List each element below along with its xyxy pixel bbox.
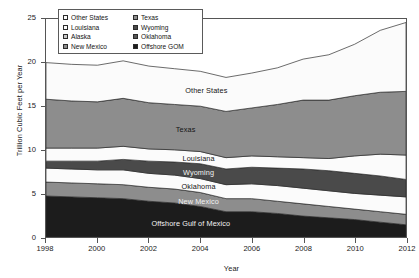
- x-tick-label: 2008: [282, 244, 326, 253]
- legend-label: Oklahoma: [141, 33, 171, 40]
- x-tick-label: 1998: [23, 244, 67, 253]
- legend-label: Other States: [71, 14, 108, 21]
- x-tick-label: 2006: [230, 244, 274, 253]
- x-tick-label: 2010: [333, 244, 377, 253]
- legend-item[interactable]: Alaska: [63, 33, 133, 40]
- x-tick-mark: [45, 238, 46, 243]
- legend-label: Wyoming: [141, 24, 168, 31]
- legend-item[interactable]: Other States: [63, 14, 133, 21]
- x-tick-label: 2000: [75, 244, 119, 253]
- legend-swatch-icon: [63, 34, 68, 39]
- x-tick-mark: [304, 238, 305, 243]
- x-tick-mark: [407, 238, 408, 243]
- legend-item[interactable]: New Mexico: [63, 43, 133, 50]
- y-tick-label: 25: [0, 13, 36, 22]
- chart-figure: Trillion Cubic Feet per Year 0510152025 …: [0, 0, 419, 278]
- y-tick-label: 0: [0, 233, 36, 242]
- legend-label: Louisiana: [71, 24, 99, 31]
- legend-label: Alaska: [71, 33, 91, 40]
- x-tick-mark: [148, 238, 149, 243]
- y-tick-mark: [41, 238, 46, 239]
- legend-grid: Other StatesTexasLouisianaWyomingAlaskaO…: [63, 13, 198, 51]
- legend-item[interactable]: Wyoming: [133, 24, 203, 31]
- legend-swatch-icon: [63, 44, 68, 49]
- x-axis-title: Year: [45, 264, 418, 273]
- legend-swatch-icon: [63, 25, 68, 30]
- legend-label: Offshore GOM: [141, 43, 184, 50]
- legend-item[interactable]: Texas: [133, 14, 203, 21]
- legend-swatch-icon: [133, 15, 138, 20]
- legend-swatch-icon: [63, 15, 68, 20]
- legend-swatch-icon: [133, 34, 138, 39]
- x-tick-label: 2012: [385, 244, 419, 253]
- x-tick-label: 2002: [126, 244, 170, 253]
- x-tick-mark: [97, 238, 98, 243]
- x-tick-label: 2004: [178, 244, 222, 253]
- x-tick-mark: [252, 238, 253, 243]
- x-tick-mark: [355, 238, 356, 243]
- y-axis-title: Trillion Cubic Feet per Year: [15, 26, 24, 196]
- legend-swatch-icon: [133, 25, 138, 30]
- legend-label: New Mexico: [71, 43, 107, 50]
- legend-swatch-icon: [133, 44, 138, 49]
- legend-item[interactable]: Oklahoma: [133, 33, 203, 40]
- legend-item[interactable]: Offshore GOM: [133, 43, 203, 50]
- chart-legend: Other StatesTexasLouisianaWyomingAlaskaO…: [58, 9, 203, 54]
- legend-item[interactable]: Louisiana: [63, 24, 133, 31]
- x-tick-mark: [200, 238, 201, 243]
- legend-label: Texas: [141, 14, 158, 21]
